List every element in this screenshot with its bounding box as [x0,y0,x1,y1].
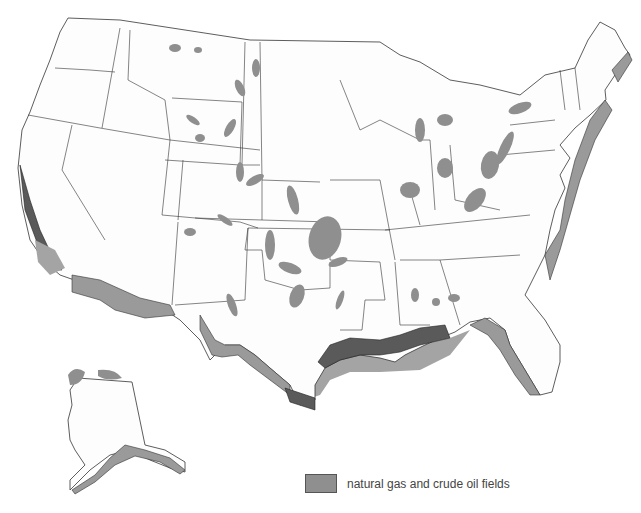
legend-label: natural gas and crude oil fields [347,477,510,491]
alaska-outline [68,378,185,490]
us-oil-gas-map [0,0,641,513]
contiguous-us-outline [18,18,630,405]
legend-swatch-oil-gas [305,474,337,493]
legend: natural gas and crude oil fields [305,474,510,493]
